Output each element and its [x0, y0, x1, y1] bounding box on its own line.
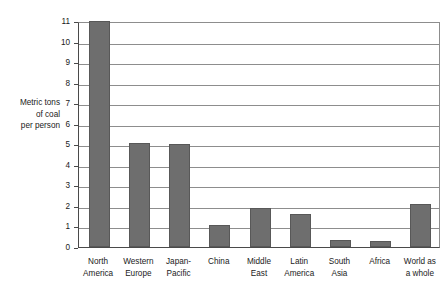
plot-area: [78, 22, 440, 248]
bar: [89, 21, 110, 247]
y-axis-tick-label: 9: [44, 59, 70, 67]
bar: [330, 240, 351, 247]
y-axis-tick-mark: [74, 248, 78, 249]
y-axis-tick-label: 11: [44, 18, 70, 26]
y-axis-tick-label: 4: [44, 162, 70, 170]
gridline: [79, 85, 439, 86]
y-axis-tick-label: 3: [44, 182, 70, 190]
gridline: [79, 126, 439, 127]
bar: [370, 241, 391, 247]
bar: [250, 208, 271, 247]
gridline: [79, 105, 439, 106]
y-axis-tick-label: 10: [44, 39, 70, 47]
x-axis-category-label: World as a whole: [393, 256, 447, 279]
bar: [129, 143, 150, 247]
gridline: [79, 44, 439, 45]
bar: [410, 204, 431, 247]
bar-chart: Metric tons of coal per person 012345678…: [0, 0, 448, 294]
y-axis-tick-label: 7: [44, 100, 70, 108]
y-axis-tick-label: 5: [44, 141, 70, 149]
y-axis-tick-label: 8: [44, 80, 70, 88]
bar: [290, 214, 311, 247]
bar: [169, 144, 190, 247]
y-axis-tick-label: 1: [44, 223, 70, 231]
y-axis-tick-label: 2: [44, 203, 70, 211]
gridline: [79, 64, 439, 65]
y-axis-tick-label: 6: [44, 121, 70, 129]
bar: [209, 225, 230, 247]
y-axis-tick-label: 0: [44, 244, 70, 252]
